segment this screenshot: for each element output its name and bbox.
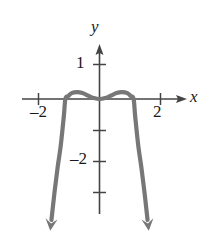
y-tick-label-neg2: –2 <box>70 150 87 167</box>
graph-figure: y x –2 2 1 –2 <box>0 0 205 238</box>
x-tick-label-pos2: 2 <box>153 103 162 120</box>
x-tick-label-neg2: –2 <box>30 103 47 120</box>
y-axis-label: y <box>91 18 99 35</box>
x-axis-label: x <box>190 88 198 105</box>
y-tick-label-pos1: 1 <box>76 54 85 71</box>
